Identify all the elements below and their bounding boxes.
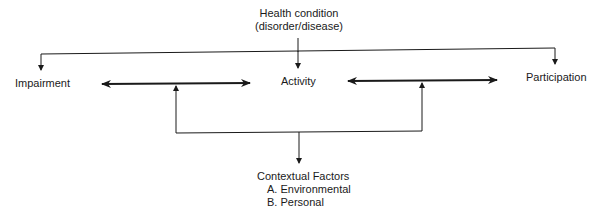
activity-label: Activity (281, 75, 316, 88)
participation-label: Participation (526, 71, 587, 84)
double-arrow-impairment-activity (102, 83, 250, 84)
double-arrow-activity-participation (348, 80, 497, 81)
contextual-factor-environmental: A. Environmental (257, 183, 351, 196)
health-condition-line2: (disorder/disease) (246, 20, 352, 33)
health-condition-line1: Health condition (246, 7, 352, 20)
contextual-factor-personal: B. Personal (257, 196, 351, 209)
impairment-label: Impairment (15, 77, 70, 90)
contextual-factors-title: Contextual Factors (257, 170, 351, 183)
health-condition-label: Health condition (disorder/disease) (246, 7, 352, 33)
contextual-factors-label: Contextual Factors A. Environmental B. P… (257, 170, 351, 209)
